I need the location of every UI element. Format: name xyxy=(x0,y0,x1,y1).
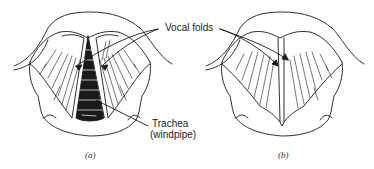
panel-b-larynx xyxy=(206,12,364,136)
trachea-label: Trachea xyxy=(152,118,188,129)
panel-b-caption: (b) xyxy=(278,150,289,160)
vocal-folds-label: Vocal folds xyxy=(165,22,213,33)
panel-a-larynx xyxy=(14,12,172,136)
windpipe-label: (windpipe) xyxy=(150,129,196,140)
panel-a-caption: (a) xyxy=(85,150,96,160)
trachea-opening xyxy=(76,36,104,121)
